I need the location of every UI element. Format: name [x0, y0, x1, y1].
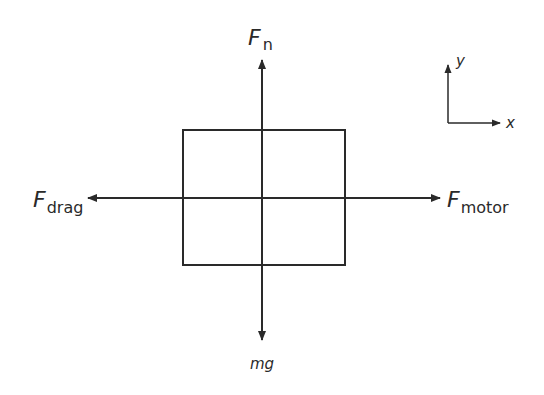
weight-force-label: mg [250, 355, 274, 373]
free-body-diagram: Fn mg Fdrag Fmotor y x [0, 0, 544, 395]
y-axis-label: y [455, 52, 466, 70]
x-axis-label: x [505, 114, 515, 132]
motor-force-label: Fmotor [447, 187, 509, 217]
drag-force-label: Fdrag [33, 187, 83, 217]
normal-force-label: Fn [248, 25, 273, 54]
coordinate-axes: y x [448, 52, 515, 132]
